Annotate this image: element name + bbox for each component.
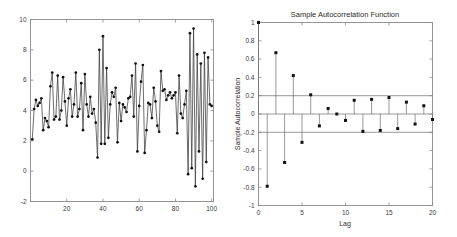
time-series-x-tick: 100 (206, 205, 217, 212)
acf-x-tick: 5 (300, 209, 304, 216)
acf-y-tick: 0 (251, 110, 255, 117)
time-series-markers (31, 27, 213, 187)
time-series-panel: 20406080100 -20246810 (0, 0, 229, 237)
acf-y-tick: -0.8 (243, 184, 255, 191)
acf-svg: Sample Autocorrelation Function 05101520… (229, 0, 457, 237)
acf-markers (257, 21, 434, 188)
acf-y-axis-label: Sample Autocorrelation (234, 78, 242, 150)
acf-y-tick-labels: -1-0.8-0.6-0.4-0.200.20.40.60.81 (243, 19, 255, 209)
time-series-y-tick: 6 (23, 76, 27, 83)
time-series-y-tick: 0 (23, 167, 27, 174)
time-series-y-tick-labels: -20246810 (19, 16, 27, 205)
acf-y-tick: 0.2 (245, 92, 254, 99)
acf-title: Sample Autocorrelation Function (291, 10, 399, 19)
time-series-x-tick: 60 (136, 205, 144, 212)
acf-y-tick: -1 (249, 202, 255, 209)
time-series-x-tick-labels: 20406080100 (63, 205, 217, 212)
acf-y-tick: -0.2 (243, 129, 255, 136)
time-series-y-tick: 4 (23, 107, 27, 114)
acf-y-tick: 0.6 (245, 55, 254, 62)
acf-x-tick: 10 (342, 209, 350, 216)
time-series-y-tick: 2 (23, 137, 27, 144)
acf-y-tick: 1 (251, 19, 255, 26)
figure-canvas: 20406080100 -20246810 Sample Autocorrela… (0, 0, 457, 237)
acf-x-tick: 0 (257, 209, 261, 216)
acf-y-tick: 0.8 (245, 37, 254, 44)
time-series-line (32, 29, 211, 187)
acf-y-tick: -0.6 (243, 165, 255, 172)
acf-x-tick: 15 (385, 209, 393, 216)
time-series-y-tick: 10 (19, 16, 27, 23)
acf-x-tick-labels: 05101520 (257, 209, 437, 216)
acf-y-tick: -0.4 (243, 147, 255, 154)
acf-x-axis-label: Lag (339, 220, 351, 228)
acf-x-tick: 20 (429, 209, 437, 216)
time-series-x-tick: 40 (99, 205, 107, 212)
time-series-svg: 20406080100 -20246810 (0, 0, 229, 237)
time-series-y-tick: 8 (23, 46, 27, 53)
time-series-y-tick: -2 (21, 198, 27, 205)
acf-y-tick: 0.4 (245, 74, 254, 81)
acf-panel: Sample Autocorrelation Function 05101520… (229, 0, 457, 237)
time-series-x-tick: 20 (63, 205, 71, 212)
time-series-x-tick: 80 (172, 205, 180, 212)
